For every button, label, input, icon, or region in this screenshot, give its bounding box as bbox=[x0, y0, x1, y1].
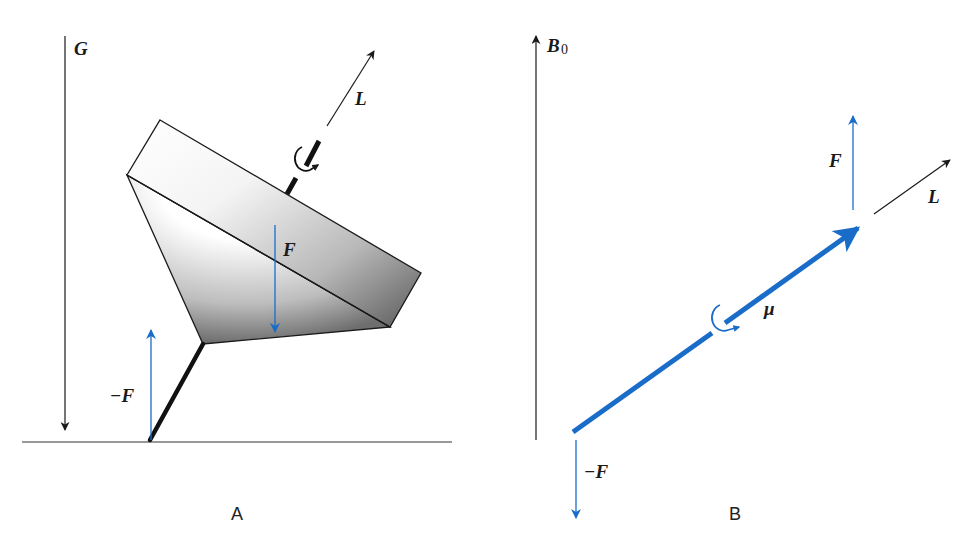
top-stem bbox=[150, 344, 203, 440]
reaction-force-label: −F bbox=[110, 385, 135, 406]
field-label: B bbox=[546, 35, 560, 56]
panel-b: B 0 μ F L −F B bbox=[536, 35, 950, 524]
magnetic-moment-arrow bbox=[725, 228, 858, 323]
angular-momentum-label: L bbox=[927, 186, 940, 207]
panel-a: G L F −F A bbox=[22, 36, 452, 524]
magnetic-moment-label: μ bbox=[763, 298, 775, 319]
magnetic-moment-lower bbox=[573, 333, 712, 432]
gravity-label: G bbox=[74, 38, 88, 59]
angular-momentum-label: L bbox=[354, 88, 367, 109]
angular-momentum-arrow bbox=[327, 51, 374, 126]
force-label: F bbox=[828, 150, 842, 171]
field-subscript: 0 bbox=[561, 42, 568, 57]
panel-a-caption: A bbox=[231, 504, 243, 524]
top-axle-upper bbox=[306, 141, 319, 166]
precession-diagram: G L F −F A B 0 bbox=[0, 0, 967, 549]
panel-b-caption: B bbox=[729, 504, 741, 524]
top-axle-lower bbox=[287, 178, 296, 194]
force-label: F bbox=[282, 239, 296, 260]
reaction-force-label: −F bbox=[584, 461, 609, 482]
